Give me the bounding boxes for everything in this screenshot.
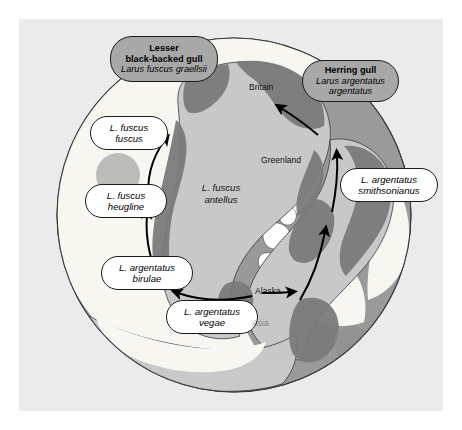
fuscus-antellus-line1: L. fuscus (178, 182, 264, 194)
label-fuscus-antellus: L. fuscus antellus (178, 182, 264, 205)
callout-argentatus-birulae[interactable]: L. argentatus birulae (101, 256, 193, 290)
hg-common-name: Herring gull (325, 65, 377, 76)
callout-herring-gull[interactable]: Herring gull Larus argentatus argentatus (302, 60, 399, 102)
lbbg-common-line1: Lesser (149, 43, 179, 54)
hg-scientific-line1: Larus argentatus (316, 76, 385, 87)
geolabel-asia: Asia (252, 318, 269, 328)
fuscus-fuscus-line2: fuscus (115, 133, 143, 144)
callout-argentatus-smithsonianus[interactable]: L. argentatus smithsonianus (340, 168, 438, 202)
hg-scientific-line2: argentatus (329, 86, 372, 97)
argentatus-vegae-line2: vegae (199, 317, 225, 328)
argentatus-smithsonianus-line2: smithsonianus (358, 185, 419, 196)
geolabel-greenland: Greenland (261, 155, 301, 165)
callout-lesser-black-backed-gull[interactable]: Lesser black-backed gull Larus fuscus gr… (110, 36, 218, 82)
callout-argentatus-vegae[interactable]: L. argentatus vegae (166, 300, 258, 334)
argentatus-birulae-line1: L. argentatus (119, 262, 175, 273)
polar-map (0, 0, 462, 430)
lbbg-common-line2: black-backed gull (125, 54, 202, 65)
fuscus-heugline-line2: heugline (108, 201, 144, 212)
fuscus-heugline-line1: L. fuscus (107, 190, 145, 201)
geolabel-britain: Britain (249, 82, 273, 92)
callout-fuscus-fuscus[interactable]: L. fuscus fuscus (90, 116, 168, 150)
fuscus-fuscus-line1: L. fuscus (110, 122, 148, 133)
lbbg-scientific-name: Larus fuscus graellsii (121, 64, 207, 75)
fuscus-antellus-line2: antellus (178, 194, 264, 206)
callout-fuscus-heugline[interactable]: L. fuscus heugline (85, 184, 167, 218)
argentatus-birulae-line2: birulae (133, 273, 162, 284)
geolabel-alaska: Alaska (255, 286, 281, 296)
argentatus-vegae-line1: L. argentatus (184, 306, 240, 317)
argentatus-smithsonianus-line1: L. argentatus (361, 174, 417, 185)
figure-root: Lesser black-backed gull Larus fuscus gr… (0, 0, 462, 430)
